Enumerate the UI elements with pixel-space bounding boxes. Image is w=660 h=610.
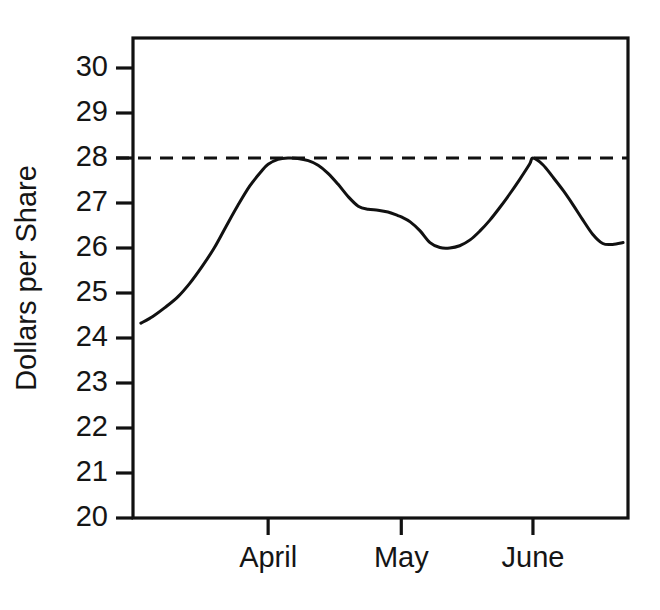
y-tick-label: 24: [76, 320, 108, 352]
chart-figure: 2021222324252627282930 AprilMayJune Doll…: [0, 0, 660, 610]
y-axis-title: Dollars per Share: [10, 165, 42, 391]
y-tick-label: 25: [76, 275, 108, 307]
y-tick-label: 20: [76, 500, 108, 532]
x-tick-label: May: [374, 541, 429, 573]
y-tick-label: 27: [76, 185, 108, 217]
y-tick-label: 28: [76, 140, 108, 172]
y-axis-ticks: [116, 68, 133, 518]
y-tick-label: 21: [76, 455, 108, 487]
x-tick-label: June: [502, 541, 565, 573]
x-axis-ticks: [268, 518, 533, 535]
y-tick-label: 30: [76, 50, 108, 82]
y-tick-label: 23: [76, 365, 108, 397]
y-tick-label: 22: [76, 410, 108, 442]
y-tick-label: 29: [76, 95, 108, 127]
plot-frame: [133, 38, 628, 518]
line-chart: 2021222324252627282930 AprilMayJune Doll…: [0, 0, 660, 610]
y-axis-tick-labels: 2021222324252627282930: [76, 50, 108, 532]
x-tick-label: April: [239, 541, 297, 573]
y-tick-label: 26: [76, 230, 108, 262]
x-axis-tick-labels: AprilMayJune: [239, 541, 564, 573]
